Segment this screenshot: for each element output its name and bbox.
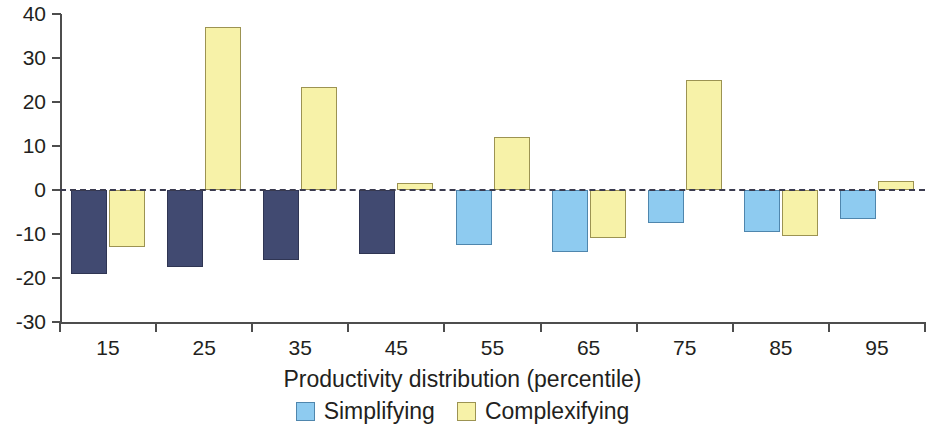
x-tick-label-25: 25	[174, 336, 234, 360]
x-tick-3	[347, 322, 349, 332]
legend-label-simplifying: Simplifying	[324, 398, 435, 424]
bar-simplifying-95[interactable]	[840, 190, 876, 219]
bar-complexifying-15[interactable]	[109, 190, 145, 247]
legend-swatch-simplifying-icon	[296, 402, 315, 421]
x-tick-5	[540, 322, 542, 332]
x-tick-label-55: 55	[463, 336, 523, 360]
x-tick-label-15: 15	[78, 336, 138, 360]
y-tick-label-30: 30	[0, 47, 46, 68]
legend-label-complexifying: Complexifying	[485, 398, 629, 424]
bar-simplifying-45[interactable]	[359, 190, 395, 254]
bar-simplifying-35[interactable]	[263, 190, 299, 260]
y-tick-label-40: 40	[0, 3, 46, 24]
y-tick-label-10: 10	[0, 135, 46, 156]
bar-simplifying-55[interactable]	[456, 190, 492, 245]
bar-simplifying-85[interactable]	[744, 190, 780, 232]
bar-simplifying-75[interactable]	[648, 190, 684, 223]
zero-reference-line	[60, 189, 925, 191]
x-tick-6	[636, 322, 638, 332]
bar-complexifying-25[interactable]	[205, 27, 241, 190]
bar-complexifying-55[interactable]	[494, 137, 530, 190]
x-tick-2	[251, 322, 253, 332]
y-tick-label-20: 20	[0, 91, 46, 112]
plot-area	[60, 14, 925, 322]
bar-simplifying-65[interactable]	[552, 190, 588, 252]
y-tick-label-0: 0	[0, 179, 46, 200]
x-tick-label-45: 45	[366, 336, 426, 360]
y-tick-label--10: -10	[0, 223, 46, 244]
bar-complexifying-85[interactable]	[782, 190, 818, 236]
x-tick-7	[732, 322, 734, 332]
x-axis-title: Productivity distribution (percentile)	[0, 366, 925, 392]
bar-complexifying-65[interactable]	[590, 190, 626, 238]
x-tick-label-35: 35	[270, 336, 330, 360]
bar-complexifying-75[interactable]	[686, 80, 722, 190]
y-tick-label--30: -30	[0, 311, 46, 332]
x-axis-line	[60, 322, 925, 324]
legend-item-complexifying[interactable]: Complexifying	[457, 398, 629, 424]
legend-swatch-complexifying-icon	[457, 402, 476, 421]
x-tick-label-65: 65	[559, 336, 619, 360]
y-tick-label--20: -20	[0, 267, 46, 288]
chart-legend: Simplifying Complexifying	[0, 398, 925, 424]
x-tick-label-95: 95	[847, 336, 907, 360]
x-tick-label-75: 75	[655, 336, 715, 360]
x-tick-4	[443, 322, 445, 332]
x-tick-1	[155, 322, 157, 332]
x-tick-8	[828, 322, 830, 332]
bar-simplifying-25[interactable]	[167, 190, 203, 267]
legend-item-simplifying[interactable]: Simplifying	[296, 398, 435, 424]
bar-simplifying-15[interactable]	[71, 190, 107, 274]
x-tick-label-85: 85	[751, 336, 811, 360]
bar-complexifying-35[interactable]	[301, 87, 337, 190]
x-tick-0	[59, 322, 61, 332]
